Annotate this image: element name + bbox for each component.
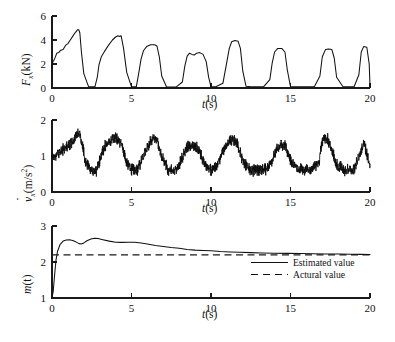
force-axes (52, 16, 370, 88)
panel-mass-estimate: m(t) 3 2 1 0 5 10 (0, 218, 395, 342)
mass-xtick-label-15: 15 (285, 302, 297, 314)
panel-mass-ylabel: m(t) (21, 274, 33, 294)
panel-force-plot: 6 4 2 0 0 5 10 15 20 (0, 0, 395, 110)
figure-root: Fx(kN) 6 4 2 0 0 (0, 0, 395, 342)
force-ytick-label-0: 0 (41, 82, 47, 94)
ylabel-symbol: v (22, 197, 34, 202)
mass-ytick-label-3: 3 (41, 220, 47, 232)
mass-ytick-label-1: 1 (41, 292, 47, 304)
acc-xtick-label-5: 5 (129, 196, 135, 208)
panel-force-ylabel: Fx(kN) (20, 53, 35, 86)
force-data-line (52, 30, 370, 87)
legend-label-estimated: Estimated value (293, 257, 355, 268)
force-xtick-label-5: 5 (129, 92, 135, 104)
panel-force: Fx(kN) 6 4 2 0 0 (0, 0, 395, 110)
acc-ytick-label-0: 0 (41, 186, 47, 198)
panel-acceleration-ylabel: vx(m/s2) (20, 165, 37, 202)
acc-xtick-label-15: 15 (285, 196, 297, 208)
ylabel-units: (t) (21, 274, 33, 285)
acc-xtick-label-20: 20 (365, 196, 377, 208)
acceleration-data-line (52, 129, 370, 177)
xlabel-units: (s) (205, 202, 217, 214)
legend: Estimated value Actural value (251, 257, 355, 280)
force-xtick-label-15: 15 (285, 92, 297, 104)
panel-acceleration-xlabel: t(s) (202, 202, 217, 214)
panel-acceleration-plot: 2 1 0 0 5 10 15 20 (0, 110, 395, 218)
ylabel-subscript: x (26, 75, 35, 78)
panel-force-xlabel: t(s) (202, 98, 217, 110)
acc-ytick-label-2: 2 (41, 114, 47, 126)
ylabel-units: (m/s2) (22, 165, 34, 194)
ylabel-symbol: F (20, 79, 32, 86)
force-xtick-label-20: 20 (365, 92, 377, 104)
ylabel-exponent: 2 (20, 169, 29, 173)
ylabel-units: (kN) (20, 53, 32, 75)
mass-xtick-label-5: 5 (129, 302, 135, 314)
panel-mass-xlabel: t(s) (202, 308, 217, 320)
acceleration-ytick-labels: 2 1 0 (41, 114, 47, 198)
acc-xtick-label-0: 0 (49, 196, 55, 208)
panel-mass-plot: 3 2 1 0 5 10 15 20 Estimated value Actur… (0, 218, 395, 342)
ylabel-symbol: m (21, 286, 33, 294)
mass-xtick-label-20: 20 (365, 302, 377, 314)
force-ytick-labels: 6 4 2 0 (41, 10, 47, 94)
mass-ytick-labels: 3 2 1 (41, 220, 47, 304)
xlabel-units: (s) (205, 98, 217, 110)
acc-ytick-label-1: 1 (41, 150, 47, 162)
force-xtick-label-0: 0 (49, 92, 55, 104)
mass-ytick-label-2: 2 (41, 256, 47, 268)
force-ytick-label-6: 6 (41, 10, 47, 22)
panel-acceleration: vx(m/s2) 2 1 0 0 5 10 (0, 110, 395, 218)
force-ytick-label-2: 2 (41, 58, 47, 70)
legend-label-actual: Actural value (293, 269, 345, 280)
mass-xtick-label-0: 0 (49, 302, 55, 314)
xlabel-units: (s) (205, 308, 217, 320)
force-ytick-label-4: 4 (41, 34, 47, 46)
